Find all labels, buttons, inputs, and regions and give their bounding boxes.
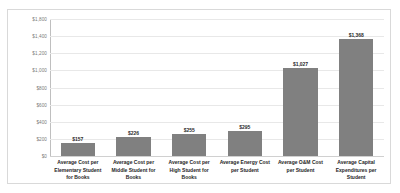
x-category-label: Average Cost per Middle Student for Book… [106, 159, 162, 182]
y-tick-label: $400 [7, 119, 47, 124]
bar[interactable] [61, 143, 96, 156]
y-tick-label: $800 [7, 85, 47, 90]
bar[interactable] [172, 134, 207, 156]
x-category-label: Average O&M Cost per Student [273, 159, 329, 174]
x-category-label: Average Cost per High Student for Books [161, 159, 217, 182]
bar[interactable] [339, 39, 374, 156]
x-category-label: Average Energy Cost per Student [217, 159, 273, 174]
x-category-label: Average Cost per Elementary Student for … [50, 159, 106, 182]
bar-value-label: $1,368 [328, 32, 384, 38]
x-category-label: Average Capital Expenditures per Student [328, 159, 384, 182]
plot-area: $157$226$255$295$1,027$1,368 [50, 19, 384, 156]
bar-slot: $295 [217, 19, 273, 156]
x-axis-category-labels: Average Cost per Elementary Student for … [50, 159, 384, 193]
y-tick-label: $1,200 [7, 51, 47, 56]
chart-container: $1,800$1,400$1,200$1,000$800$600$400$200… [7, 9, 391, 184]
bar-value-label: $226 [106, 130, 162, 136]
bar-value-label: $295 [217, 124, 273, 130]
bar-slot: $1,368 [328, 19, 384, 156]
bar[interactable] [228, 131, 263, 156]
y-axis-tick-labels: $1,800$1,400$1,200$1,000$800$600$400$200… [8, 19, 47, 156]
bar-slot: $157 [50, 19, 106, 156]
y-tick-label: $200 [7, 136, 47, 141]
bar-value-label: $1,027 [273, 61, 329, 67]
y-tick-label: $1,400 [7, 34, 47, 39]
bar-slot: $255 [161, 19, 217, 156]
y-tick-label: $1,800 [7, 17, 47, 22]
bar-slot: $1,027 [273, 19, 329, 156]
y-tick-label: $0 [7, 154, 47, 159]
bar-value-label: $255 [161, 127, 217, 133]
y-tick-label: $1,000 [7, 68, 47, 73]
bar-value-label: $157 [50, 136, 106, 142]
bar[interactable] [116, 137, 151, 156]
gridline [50, 156, 384, 157]
y-tick-label: $600 [7, 102, 47, 107]
bar[interactable] [283, 68, 318, 156]
bar-slot: $226 [106, 19, 162, 156]
